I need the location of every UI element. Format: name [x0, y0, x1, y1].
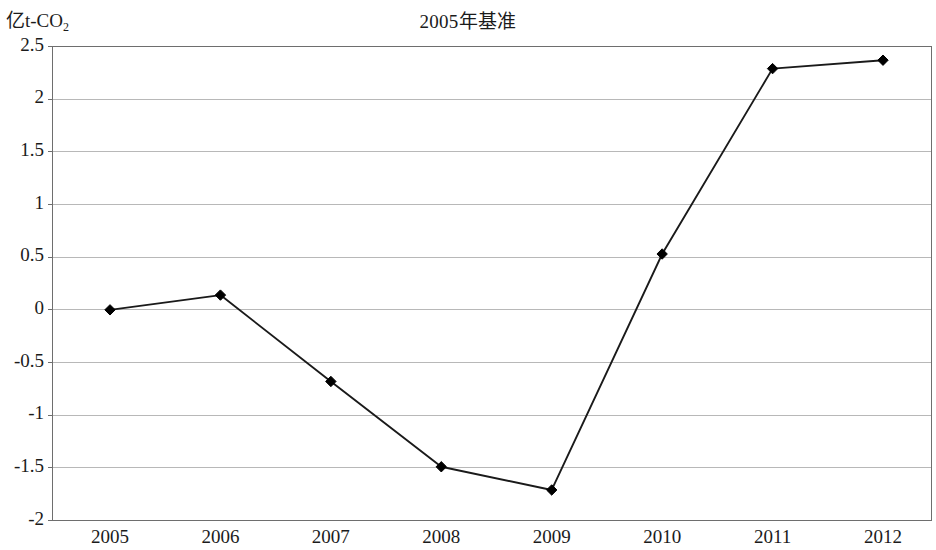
y-axis-tick-marks — [48, 47, 53, 521]
plot-area — [0, 0, 936, 550]
data-point-marker — [878, 55, 888, 65]
data-point-marker — [767, 63, 777, 73]
y-axis-tick-label: 1.5 — [0, 139, 44, 161]
y-axis-tick-label: -0.5 — [0, 350, 44, 372]
x-axis-tick-label: 2010 — [607, 526, 717, 548]
x-axis-tick-label: 2006 — [165, 526, 275, 548]
y-axis-tick-label: -1.5 — [0, 455, 44, 477]
data-point-marker — [105, 305, 115, 315]
y-axis-tick-label: 1 — [0, 192, 44, 214]
chart-container: 亿t-CO2 2005年基准 2.521.510.50-0.5-1-1.5-2 … — [0, 0, 936, 550]
data-series-line — [110, 60, 883, 490]
data-point-marker — [547, 485, 557, 495]
y-axis-tick-label: -2 — [0, 508, 44, 530]
y-axis-tick-label: 2 — [0, 86, 44, 108]
x-axis-tick-label: 2011 — [718, 526, 828, 548]
axis-frame — [53, 47, 932, 521]
series-line — [110, 60, 883, 490]
x-axis-tick-label: 2009 — [497, 526, 607, 548]
y-axis-tick-label: 0.5 — [0, 244, 44, 266]
x-axis-tick-label: 2007 — [276, 526, 386, 548]
data-point-markers — [105, 55, 888, 495]
y-axis-tick-label: 0 — [0, 297, 44, 319]
y-axis-tick-label: 2.5 — [0, 34, 44, 56]
x-axis-tick-label: 2008 — [386, 526, 496, 548]
x-axis-tick-label: 2005 — [55, 526, 165, 548]
gridlines — [53, 99, 932, 468]
y-axis-tick-label: -1 — [0, 402, 44, 424]
x-axis-tick-label: 2012 — [828, 526, 936, 548]
